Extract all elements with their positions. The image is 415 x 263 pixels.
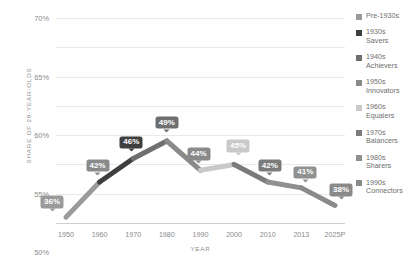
y-axis-title: SHARE OF 28-YEAR-OLDS	[25, 41, 32, 191]
legend-item-label: 1930s Savers	[366, 28, 388, 46]
line-segment	[268, 182, 302, 188]
legend-item-label: 1940s Achievers	[366, 53, 398, 71]
callout-tail-icon	[164, 129, 170, 132]
legend-swatch-icon	[356, 155, 362, 161]
x-axis-tick-label: 1960	[92, 230, 108, 239]
legend-swatch-icon	[356, 14, 362, 20]
legend: Pre-1930s1930s Savers1940s Achievers1950…	[356, 12, 415, 204]
y-axis-tick-label: 60%	[34, 131, 49, 140]
line-segment	[66, 182, 100, 217]
line-chart: SHARE OF 28-YEAR-OLDS 35%40%45%50%55%60%…	[0, 0, 415, 263]
x-axis-tick-label: 1970	[125, 230, 141, 239]
legend-item-label: 1990s Connectors	[366, 179, 403, 197]
data-point-value: 42%	[262, 160, 278, 169]
x-axis-tick-label: 2000	[226, 230, 242, 239]
data-point-label: 42%	[258, 160, 281, 172]
legend-swatch-icon	[356, 130, 362, 136]
callout-tail-icon	[195, 161, 201, 164]
data-point-label: 46%	[120, 136, 143, 148]
data-point-value: 46%	[123, 137, 139, 146]
x-axis-line: 35%	[56, 223, 345, 224]
data-point-value: 36%	[44, 196, 60, 205]
legend-item[interactable]: 1960s Equalers	[356, 103, 415, 121]
data-point-value: 38%	[333, 184, 349, 193]
legend-item[interactable]: 1990s Connectors	[356, 179, 415, 197]
legend-item[interactable]: 1940s Achievers	[356, 53, 415, 71]
y-axis-tick-label: 70%	[34, 14, 49, 23]
y-axis-tick-label: 50%	[34, 248, 49, 257]
data-line	[56, 18, 345, 223]
callout-tail-icon	[338, 197, 344, 200]
callout-tail-icon	[235, 153, 241, 156]
legend-item-label: 1950s Innovators	[366, 78, 400, 96]
x-axis-title: YEAR	[56, 245, 345, 252]
data-point-label: 41%	[294, 166, 317, 178]
legend-item[interactable]: 1950s Innovators	[356, 78, 415, 96]
x-axis-tick-label: 1990	[193, 230, 209, 239]
plot-area: 35%40%45%50%55%60%65%70% 36%42%46%49%44%…	[56, 18, 345, 223]
data-point-label: 38%	[329, 184, 352, 196]
x-axis-tick-label: 1980	[159, 230, 175, 239]
legend-swatch-icon	[356, 30, 362, 36]
data-point-value: 45%	[230, 140, 246, 149]
legend-item-label: 1980s Sharers	[366, 154, 391, 172]
legend-item[interactable]: Pre-1930s	[356, 12, 415, 21]
data-point-value: 44%	[190, 148, 206, 157]
data-point-value: 42%	[90, 160, 106, 169]
callout-tail-icon	[267, 172, 273, 175]
legend-item[interactable]: 1980s Sharers	[356, 154, 415, 172]
data-point-label: 36%	[40, 196, 63, 208]
x-axis-tick-label: 2013	[293, 230, 309, 239]
callout-tail-icon	[302, 179, 308, 182]
data-point-value: 41%	[297, 167, 313, 176]
legend-swatch-icon	[356, 80, 362, 86]
data-point-value: 49%	[159, 117, 175, 126]
legend-item[interactable]: 1930s Savers	[356, 28, 415, 46]
legend-item[interactable]: 1970s Balancers	[356, 129, 415, 147]
legend-swatch-icon	[356, 55, 362, 61]
data-point-label: 44%	[187, 148, 210, 160]
legend-item-label: 1960s Equalers	[366, 103, 394, 121]
callout-tail-icon	[128, 149, 134, 152]
legend-item-label: 1970s Balancers	[366, 129, 398, 147]
callout-tail-icon	[49, 209, 55, 212]
legend-item-label: Pre-1930s	[366, 12, 399, 21]
data-point-label: 42%	[86, 160, 109, 172]
callout-tail-icon	[95, 172, 101, 175]
line-segment	[201, 164, 235, 170]
y-axis-tick-label: 65%	[34, 72, 49, 81]
x-axis-tick-label: 2025P	[325, 230, 346, 239]
data-point-label: 49%	[155, 117, 178, 129]
x-axis-tick-label: 2010	[260, 230, 276, 239]
legend-swatch-icon	[356, 180, 362, 186]
x-axis-tick-label: 1950	[58, 230, 74, 239]
legend-swatch-icon	[356, 105, 362, 111]
data-point-label: 45%	[227, 140, 250, 152]
